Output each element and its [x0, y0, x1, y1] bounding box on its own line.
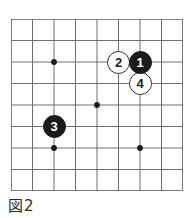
go-diagram-figure: 2143 図2 [0, 0, 191, 218]
stone-move-number: 3 [50, 120, 57, 133]
go-board-grid [11, 19, 183, 191]
stone-move-number: 1 [136, 55, 143, 68]
hoshi-center-star-point [94, 102, 100, 108]
stone-move-1-black[interactable]: 1 [129, 51, 152, 74]
hoshi-bottom-left-star-point [51, 145, 57, 151]
hoshi-top-left-star-point [51, 59, 57, 65]
stone-move-4-white[interactable]: 4 [129, 72, 152, 95]
figure-caption: 図2 [8, 194, 35, 215]
go-board[interactable] [11, 19, 183, 191]
hoshi-bottom-right-star-point [137, 145, 143, 151]
stone-move-2-white[interactable]: 2 [107, 51, 130, 74]
stone-move-number: 4 [136, 77, 143, 90]
stone-move-3-black[interactable]: 3 [43, 115, 66, 138]
stone-move-number: 2 [115, 55, 122, 68]
